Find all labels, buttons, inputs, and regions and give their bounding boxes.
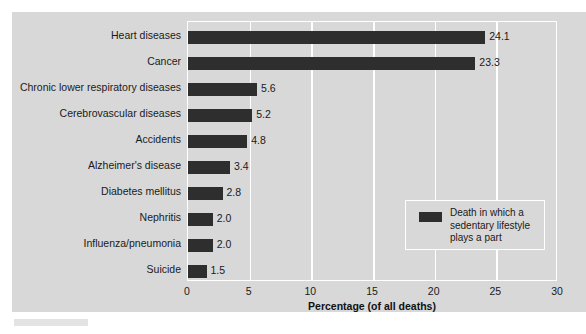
bar-value-label: 2.0 — [217, 211, 232, 226]
x-tick-30: 30 — [542, 284, 572, 298]
category-label: Cerebrovascular diseases — [0, 106, 181, 121]
category-label: Diabetes mellitus — [0, 184, 181, 199]
category-label: Influenza/pneumonia — [0, 236, 181, 251]
bar-value-label: 4.8 — [251, 133, 266, 148]
bar — [188, 57, 475, 70]
bar-row: 23.3 — [188, 51, 556, 77]
legend-label-line-1: Death in which a — [450, 207, 542, 220]
x-tick-0: 0 — [172, 284, 202, 298]
bar-row: 3.4 — [188, 155, 556, 181]
x-axis-title: Percentage (of all deaths) — [187, 299, 557, 313]
bar — [188, 31, 485, 44]
category-label: Heart diseases — [0, 28, 181, 43]
legend-label: Death in which a sedentary lifestyle pla… — [450, 207, 542, 245]
category-label: Chronic lower respiratory diseases — [0, 80, 181, 95]
bar-value-label: 2.0 — [217, 237, 232, 252]
bar-value-label: 24.1 — [489, 29, 509, 44]
bar-value-label: 3.4 — [234, 159, 249, 174]
bar — [188, 239, 213, 252]
x-tick-15: 15 — [357, 284, 387, 298]
legend-label-line-3: plays a part — [450, 232, 542, 245]
bar — [188, 161, 230, 174]
bar-row: 4.8 — [188, 129, 556, 155]
legend-label-line-2: sedentary lifestyle — [450, 220, 542, 233]
category-label: Nephritis — [0, 210, 181, 225]
bar-row: 1.5 — [188, 259, 556, 285]
legend: Death in which a sedentary lifestyle pla… — [405, 200, 545, 250]
bar — [188, 83, 257, 96]
category-label: Alzheimer's disease — [0, 158, 181, 173]
bar — [188, 135, 247, 148]
category-label: Accidents — [0, 132, 181, 147]
bar-value-label: 1.5 — [211, 263, 226, 278]
x-tick-25: 25 — [480, 284, 510, 298]
bar-value-label: 5.2 — [256, 107, 271, 122]
bar — [188, 187, 223, 200]
bar-value-label: 2.8 — [227, 185, 242, 200]
x-tick-10: 10 — [295, 284, 325, 298]
bar-value-label: 5.6 — [261, 81, 276, 96]
figure: Heart diseasesCancerChronic lower respir… — [0, 0, 586, 334]
bar-row: 5.6 — [188, 77, 556, 103]
bar-value-label: 23.3 — [479, 55, 499, 70]
x-tick-5: 5 — [234, 284, 264, 298]
caption-artifact — [14, 319, 88, 326]
bar — [188, 109, 252, 122]
legend-swatch-sedentary — [419, 212, 442, 222]
x-tick-20: 20 — [419, 284, 449, 298]
bar-row: 5.2 — [188, 103, 556, 129]
bar-row: 24.1 — [188, 25, 556, 51]
category-label: Cancer — [0, 54, 181, 69]
bar — [188, 213, 213, 226]
bar — [188, 265, 207, 278]
category-label: Suicide — [0, 262, 181, 277]
